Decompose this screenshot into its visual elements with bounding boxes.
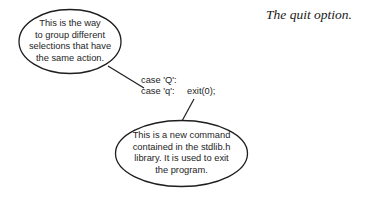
code-exit-statement: exit(0); [187,86,215,97]
grouping-callout-text: This is the way to group different selec… [20,18,120,64]
exit-callout-text: This is a new command contained in the s… [116,130,247,176]
exit-callout-pointer [182,99,194,121]
grouping-callout-line-4: the same action. [20,53,120,65]
grouping-callout-line-2: to group different [20,30,120,42]
exit-callout-line-2: contained in the stdlib.h [116,142,247,154]
grouping-callout-line-3: selections that have [20,41,120,53]
grouping-callout-pointer [108,66,144,88]
figure-caption: The quit option. [266,7,352,23]
diagram: This is the way to group different selec… [0,0,368,203]
code-line-case-lower: case 'q': [141,86,175,97]
grouping-callout-line-1: This is the way [20,18,120,30]
exit-callout-line-4: the program. [116,165,247,177]
code-line-case-upper: case 'Q': [141,75,177,86]
exit-callout-line-3: library. It is used to exit [116,153,247,165]
exit-callout-line-1: This is a new command [116,130,247,142]
